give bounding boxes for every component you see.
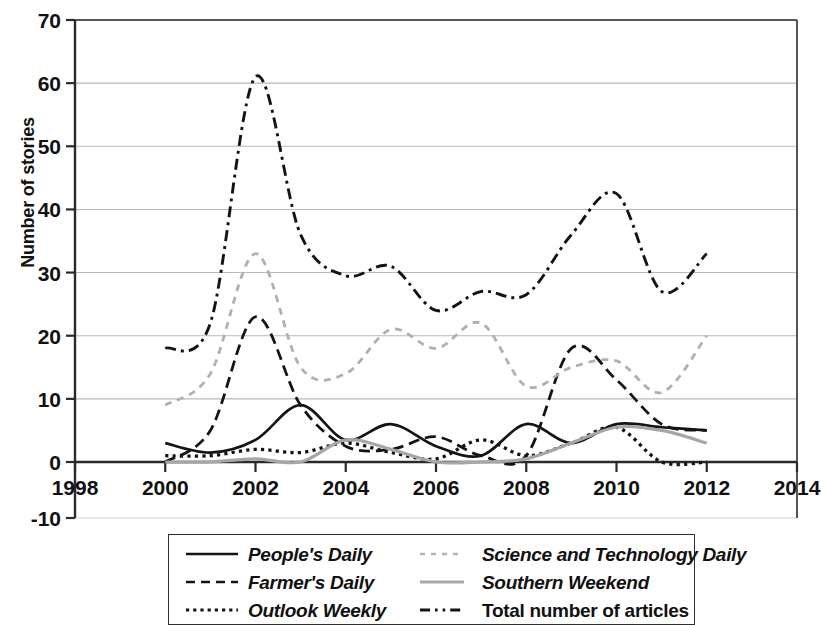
- chart-legend: People's Daily Science and Technology Da…: [168, 534, 695, 625]
- x-tick-label: 2004: [322, 476, 369, 499]
- legend-item-science-and-technology-daily[interactable]: Science and Technology Daily: [415, 545, 696, 564]
- series-line-total-number-of-articles: [165, 76, 707, 351]
- y-tick-label: 20: [38, 325, 61, 348]
- x-tick-labels-group: 199820002002200420062008201020122014: [52, 476, 821, 499]
- legend-item-peoples-daily[interactable]: People's Daily: [169, 545, 415, 564]
- series-lines-group: [165, 76, 707, 465]
- solid-dark-line-swatch: [185, 547, 239, 561]
- y-tick-label: 50: [38, 135, 61, 158]
- legend-label-peoples-daily: People's Daily: [248, 545, 372, 564]
- y-tick-label: 0: [49, 451, 61, 474]
- legend-label-outlook-weekly: Outlook Weekly: [248, 601, 386, 620]
- legend-label-total-number-of-articles: Total number of articles: [482, 601, 689, 620]
- y-tick-label: 30: [38, 262, 61, 285]
- y-tick-labels-group: 010203040506070-10: [31, 9, 61, 530]
- legend-item-total-number-of-articles[interactable]: Total number of articles: [415, 601, 696, 620]
- x-tick-label: 2014: [774, 476, 821, 499]
- legend-label-farmers-daily: Farmer's Daily: [248, 573, 374, 592]
- y-tick-label: 70: [38, 9, 61, 32]
- plot-frame: [75, 20, 797, 518]
- series-line-farmer-s-daily: [165, 317, 707, 465]
- light-solid-line-swatch: [419, 575, 473, 589]
- y-tick-label: 60: [38, 72, 61, 95]
- dark-dashed-line-swatch: [185, 575, 239, 589]
- x-tick-label: 1998: [52, 476, 99, 499]
- y-tick-label-negative: -10: [31, 507, 61, 530]
- legend-label-southern-weekend: Southern Weekend: [482, 573, 649, 592]
- legend-item-outlook-weekly[interactable]: Outlook Weekly: [169, 601, 415, 620]
- y-tick-label: 10: [38, 388, 61, 411]
- x-tick-label: 2010: [593, 476, 640, 499]
- legend-item-southern-weekend[interactable]: Southern Weekend: [415, 573, 696, 592]
- line-chart-canvas: 010203040506070-10 199820002002200420062…: [0, 0, 821, 625]
- y-tick-label: 40: [38, 198, 61, 221]
- legend-item-farmers-daily[interactable]: Farmer's Daily: [169, 573, 415, 592]
- chart-figure: Number of stories 010203040506070-10 199…: [0, 0, 821, 625]
- x-tick-label: 2006: [413, 476, 460, 499]
- dash-dot-line-swatch: [419, 603, 473, 617]
- x-tick-label: 2000: [142, 476, 189, 499]
- gridlines-group: [75, 20, 797, 518]
- x-tick-label: 2012: [683, 476, 730, 499]
- dark-dotted-line-swatch: [185, 603, 239, 617]
- light-dashed-line-swatch: [419, 547, 473, 561]
- legend-label-science-and-technology-daily: Science and Technology Daily: [482, 545, 746, 564]
- x-tick-label: 2002: [232, 476, 279, 499]
- x-tick-label: 2008: [503, 476, 550, 499]
